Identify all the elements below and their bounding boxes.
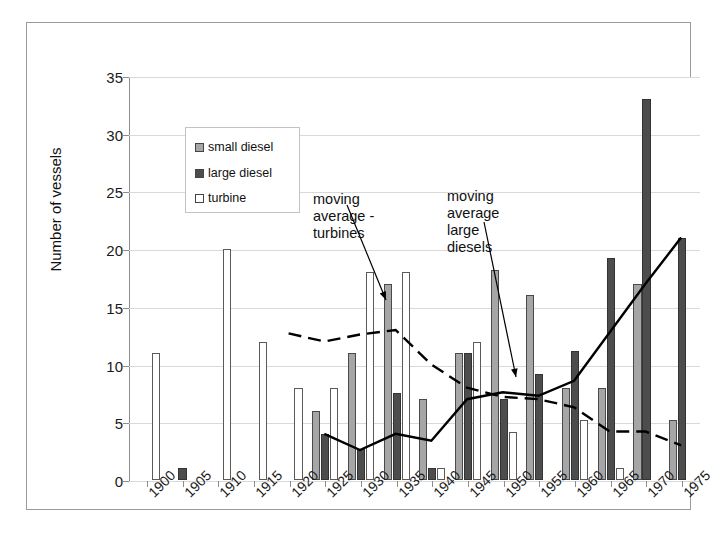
bar-small-1930 (348, 353, 356, 480)
bar-large-1955 (535, 374, 543, 480)
bar-small-1950 (491, 270, 499, 480)
y-tick-mark (123, 192, 129, 193)
y-axis-tick-labels: 05101520253035 (79, 77, 123, 482)
y-tick-label: 10 (83, 357, 123, 374)
legend-label-large-diesel: large diesel (208, 166, 272, 180)
bar-small-1935 (384, 284, 392, 480)
bar-turbine-1925 (330, 388, 338, 480)
chart-frame: Number of vessels 05101520253035 1900190… (26, 22, 691, 510)
bar-turbine-1950 (509, 432, 517, 480)
bar-small-1945 (455, 353, 463, 480)
legend-label-turbine: turbine (208, 191, 246, 205)
legend-item-small-diesel: small diesel (195, 140, 273, 154)
y-tick-mark (123, 481, 129, 482)
legend: small diesel large diesel turbine (185, 127, 300, 213)
legend-item-turbine: turbine (195, 191, 246, 205)
y-tick-mark (123, 250, 129, 251)
y-tick-label: 25 (83, 184, 123, 201)
bar-small-1970 (633, 284, 641, 480)
bar-large-1970 (642, 99, 650, 480)
legend-label-small-diesel: small diesel (208, 140, 273, 154)
bar-large-1905 (178, 468, 186, 480)
y-tick-label: 20 (83, 242, 123, 259)
y-tick-mark (123, 135, 129, 136)
bar-turbine-1910 (223, 249, 231, 480)
bar-large-1940 (428, 468, 436, 480)
legend-swatch-large-diesel-icon (195, 169, 204, 178)
bar-large-1960 (571, 351, 579, 480)
y-tick-mark (123, 308, 129, 309)
y-tick-label: 5 (83, 415, 123, 432)
bar-large-1975 (678, 238, 686, 480)
y-tick-mark (123, 423, 129, 424)
bar-turbine-1900 (152, 353, 160, 480)
bar-turbine-1915 (259, 342, 267, 481)
y-tick-label: 0 (83, 473, 123, 490)
annotation-moving-average-turbines: moving average - turbines (313, 191, 374, 242)
y-tick-mark (123, 366, 129, 367)
bar-large-1930 (357, 449, 365, 480)
bar-large-1925 (321, 434, 329, 480)
bar-turbine-1960 (580, 420, 588, 480)
legend-swatch-turbine-icon (195, 194, 204, 203)
bar-large-1950 (500, 399, 508, 480)
legend-swatch-small-diesel-icon (195, 143, 204, 152)
y-tick-label: 15 (83, 299, 123, 316)
bar-small-1940 (419, 399, 427, 480)
y-axis-title: Number of vessels (47, 100, 64, 320)
bar-large-1965 (607, 258, 615, 480)
bar-large-1945 (464, 353, 472, 480)
y-axis-line (129, 77, 130, 482)
bar-turbine-1930 (366, 272, 374, 480)
y-tick-label: 30 (83, 126, 123, 143)
bar-turbine-1920 (294, 388, 302, 480)
bar-large-1935 (393, 393, 401, 480)
y-tick-mark (123, 77, 129, 78)
bar-small-1965 (598, 388, 606, 480)
chart-page: Number of vessels 05101520253035 1900190… (0, 0, 719, 546)
y-tick-label: 35 (83, 69, 123, 86)
bar-turbine-1945 (473, 342, 481, 481)
legend-item-large-diesel: large diesel (195, 166, 272, 180)
annotation-moving-average-large-diesels: moving average large diesels (447, 188, 499, 256)
gridline (129, 77, 700, 78)
bar-small-1960 (562, 388, 570, 480)
bar-turbine-1935 (402, 272, 410, 480)
gridline (129, 250, 700, 251)
bar-small-1955 (526, 295, 534, 480)
